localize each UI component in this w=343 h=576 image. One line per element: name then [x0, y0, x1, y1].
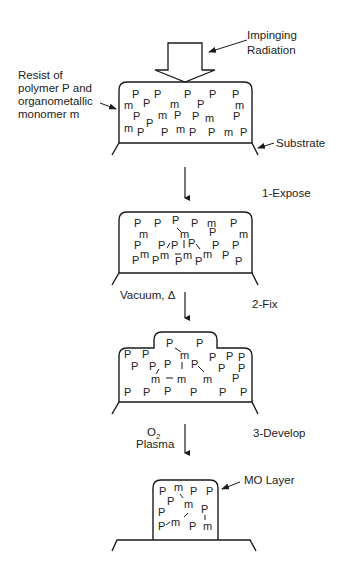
svg-text:P: P — [219, 386, 226, 398]
step3-label: 3-Develop — [253, 427, 305, 439]
svg-text:P: P — [172, 214, 179, 226]
svg-text:P: P — [209, 351, 216, 363]
svg-text:P: P — [164, 385, 171, 397]
mo-layer-label: MO Layer — [244, 474, 295, 487]
substrate-label: Substrate — [276, 137, 325, 150]
svg-text:P: P — [175, 255, 182, 267]
svg-text:P: P — [158, 506, 165, 518]
step3-condition-plasma: Plasma — [136, 438, 175, 450]
svg-text:m: m — [203, 248, 212, 260]
svg-text:m: m — [203, 520, 212, 532]
substrate-leader-line — [258, 143, 274, 148]
svg-text:m: m — [171, 516, 180, 528]
svg-text:P: P — [191, 358, 198, 370]
svg-text:P: P — [218, 362, 225, 374]
svg-text:m: m — [224, 126, 233, 138]
svg-text:m: m — [180, 349, 189, 361]
svg-text:P: P — [154, 88, 161, 100]
svg-text:P: P — [209, 88, 216, 100]
svg-text:P: P — [232, 372, 239, 384]
svg-text:P: P — [146, 117, 153, 129]
svg-text:m: m — [183, 249, 192, 261]
resist-label-line3: organometallic — [18, 95, 93, 108]
svg-text:m: m — [124, 122, 133, 134]
svg-text:P: P — [161, 126, 168, 138]
svg-text:P: P — [184, 88, 191, 100]
svg-text:P: P — [226, 350, 233, 362]
svg-text:P: P — [137, 126, 144, 138]
svg-text:P: P — [166, 337, 173, 349]
svg-text:P: P — [235, 255, 242, 267]
svg-text:P: P — [189, 520, 196, 532]
svg-text:m: m — [177, 373, 186, 385]
svg-text:P: P — [192, 110, 199, 122]
svg-text:m: m — [158, 109, 167, 121]
resist-label: Resist of polymer P and organometallic m… — [18, 69, 93, 121]
resist-label-line4: monomer m — [18, 108, 93, 121]
svg-text:P: P — [132, 254, 139, 266]
svg-text:P: P — [240, 386, 247, 398]
svg-text:P: P — [131, 360, 138, 372]
svg-text:P: P — [195, 255, 202, 267]
svg-text:P: P — [188, 237, 195, 249]
svg-text:P: P — [189, 126, 196, 138]
svg-text:P: P — [190, 386, 197, 398]
svg-text:P: P — [209, 226, 216, 238]
svg-text:P: P — [206, 485, 213, 497]
radiation-arrow-icon — [155, 43, 215, 82]
svg-text:P: P — [142, 348, 149, 360]
svg-text:P: P — [190, 485, 197, 497]
svg-text:P: P — [143, 97, 150, 109]
radiation-label-line1: Impinging — [247, 29, 297, 42]
radiation-leader-line — [209, 40, 247, 52]
radiation-label: Impinging Radiation — [247, 29, 297, 57]
svg-text:m: m — [203, 373, 212, 385]
fixed-resist-block: PP m PP PPP PPP PPP mmm P PPP PPP — [112, 332, 258, 414]
svg-text:P: P — [158, 520, 165, 532]
svg-text:P: P — [124, 386, 131, 398]
svg-text:m: m — [239, 228, 248, 240]
initial-resist-block: PP PPP mP mPm PmP PmP P mPP mPP mP — [112, 82, 258, 155]
svg-text:m: m — [174, 481, 183, 493]
svg-text:P: P — [230, 217, 237, 229]
exposed-resist-block: PPP PmP mmPm PPP PPP PmP mPm PmPP — [112, 212, 258, 285]
svg-text:P: P — [164, 358, 171, 370]
svg-text:m: m — [205, 112, 214, 124]
svg-text:P: P — [154, 217, 161, 229]
svg-text:P: P — [212, 239, 219, 251]
svg-text:P: P — [171, 239, 178, 251]
svg-text:m: m — [176, 123, 185, 135]
developed-pattern-block: Pm PP Pm PP Pm Pm — [112, 480, 256, 551]
svg-text:P: P — [167, 495, 174, 507]
svg-text:m: m — [160, 249, 169, 261]
svg-text:m: m — [124, 99, 133, 111]
svg-text:P: P — [149, 360, 156, 372]
svg-text:P: P — [208, 126, 215, 138]
resist-symbols: PP PPP mP mPm PmP PmP P mPP mPP mP — [124, 88, 247, 138]
svg-text:P: P — [174, 109, 181, 121]
resist-leader-line — [100, 103, 116, 109]
step1-label: 1-Expose — [262, 187, 311, 199]
step2-condition: Vacuum, Δ — [120, 289, 176, 301]
svg-text:P: P — [191, 217, 198, 229]
step2-label: 2-Fix — [252, 298, 278, 310]
svg-text:P: P — [152, 254, 159, 266]
resist-label-line2: polymer P and — [18, 82, 93, 95]
svg-text:P: P — [196, 337, 203, 349]
svg-text:m: m — [184, 498, 193, 510]
radiation-label-line2: Radiation — [247, 44, 297, 57]
svg-text:P: P — [233, 110, 240, 122]
svg-text:P: P — [143, 386, 150, 398]
svg-text:P: P — [133, 110, 140, 122]
svg-text:P: P — [124, 348, 131, 360]
svg-text:P: P — [159, 485, 166, 497]
svg-text:P: P — [232, 239, 239, 251]
svg-text:P: P — [197, 98, 204, 110]
mo-layer-leader-line — [222, 482, 240, 489]
svg-text:P: P — [222, 249, 229, 261]
resist-label-line1: Resist of — [18, 69, 93, 82]
svg-text:P: P — [240, 126, 247, 138]
svg-text:m: m — [151, 373, 160, 385]
svg-text:P: P — [201, 503, 208, 515]
svg-text:m: m — [140, 248, 149, 260]
